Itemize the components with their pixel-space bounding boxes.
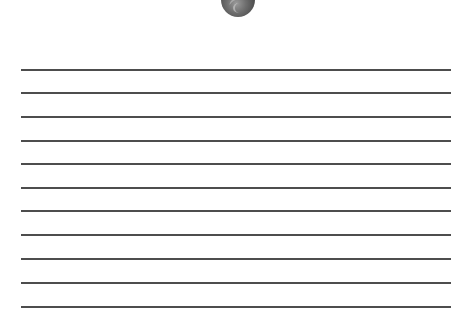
ruled-line xyxy=(21,140,451,142)
ruled-line xyxy=(21,163,451,165)
coin-icon xyxy=(221,0,255,17)
ruled-line xyxy=(21,306,451,308)
ruled-line xyxy=(21,210,451,212)
ruled-line xyxy=(21,69,451,71)
ruled-line xyxy=(21,234,451,236)
ruled-line xyxy=(21,92,451,94)
ruled-line xyxy=(21,282,451,284)
ruled-line xyxy=(21,187,451,189)
ruled-line xyxy=(21,258,451,260)
ruled-line xyxy=(21,116,451,118)
